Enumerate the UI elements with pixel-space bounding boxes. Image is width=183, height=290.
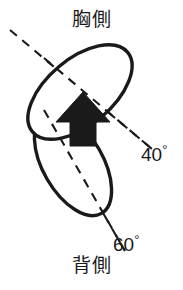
anatomical-orientation-figure: 胸側 背側 40° 60° (0, 0, 183, 290)
lower-angle-label: 60° (113, 235, 139, 254)
dorsal-side-label: 背側 (0, 256, 183, 275)
lower-angle-value: 60 (113, 234, 134, 255)
upper-angle-degree-icon: ° (162, 142, 167, 157)
ventral-side-label: 胸側 (0, 10, 183, 29)
upper-angle-value: 40 (141, 144, 162, 165)
upper-angle-label: 40° (141, 145, 167, 164)
lower-angle-degree-icon: ° (134, 232, 139, 247)
